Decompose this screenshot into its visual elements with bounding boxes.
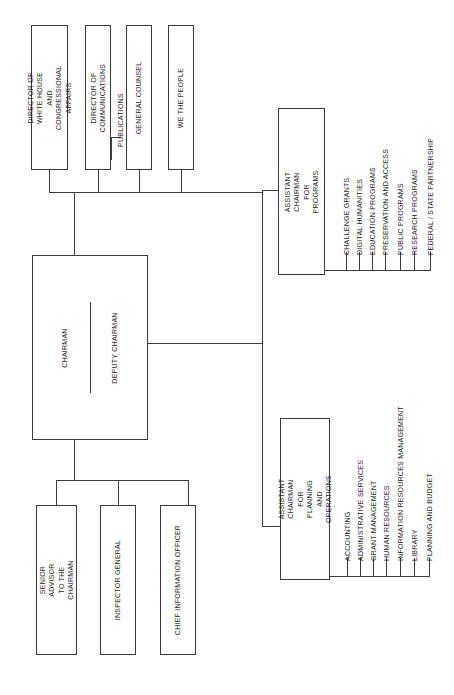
node-director-communications[interactable]: DIRECTOR OF COMMUNICATIONS xyxy=(85,25,111,170)
node-assistant-chairman-programs[interactable]: ASSISTANT CHAIRMAN FOR PROGRAMS xyxy=(278,108,325,275)
node-chief-information-officer[interactable]: CHIEF INFORMATION OFFICER xyxy=(160,505,196,655)
node-label: GENERAL COUNSEL xyxy=(134,61,143,134)
programs-item: CHALLENGE GRANTS xyxy=(343,177,350,255)
operations-item: HUMAN RESOURCES xyxy=(383,485,390,561)
staff-bus xyxy=(49,192,263,193)
node-label: ASSISTANT CHAIRMAN FOR PROGRAMS xyxy=(283,170,321,213)
direct-reports-stem xyxy=(74,440,75,480)
operations-bus xyxy=(330,576,430,577)
node-senior-advisor[interactable]: SENIOR ADVISOR TO THE CHAIRMAN xyxy=(36,505,77,655)
staff-drop-white-house xyxy=(49,170,50,192)
assistant-chairmen-spine xyxy=(262,190,263,526)
programs-item: PUBLIC PROGRAMS xyxy=(397,183,404,255)
node-chairman-office[interactable]: CHAIRMAN DEPUTY CHAIRMAN xyxy=(32,255,148,440)
direct-reports-drop-inspector-general xyxy=(118,480,119,505)
direct-reports-drop-cio xyxy=(188,480,189,505)
node-label: DIRECTOR OF WHITE HOUSE AND CONGRESSIONA… xyxy=(26,65,73,129)
node-publications: PUBLICATIONS xyxy=(117,93,124,147)
operations-item: LIBRARY xyxy=(411,529,418,561)
programs-bus xyxy=(325,270,431,271)
programs-item: FEDERAL / STATE PARTNERSHIP xyxy=(427,138,434,255)
operations-item: GRANT MANAGEMENT xyxy=(370,481,377,562)
node-assistant-chairman-planning-operations[interactable]: ASSISTANT CHAIRMAN FOR PLANNING AND OPER… xyxy=(280,418,330,580)
node-inspector-general[interactable]: INSPECTOR GENERAL xyxy=(100,505,136,655)
node-general-counsel[interactable]: GENERAL COUNSEL xyxy=(126,25,152,170)
node-label: SENIOR ADVISOR TO THE CHAIRMAN xyxy=(38,560,76,599)
node-label-deputy-chairman: DEPUTY CHAIRMAN xyxy=(110,312,119,383)
org-chart: DIRECTOR OF WHITE HOUSE AND CONGRESSIONA… xyxy=(0,0,454,695)
programs-item: DIGITAL HUMANITIES xyxy=(356,179,363,255)
operations-item: ADMINISTRATIVE SERVICES xyxy=(357,460,364,561)
publications-connector-vertical xyxy=(111,137,112,160)
node-label: DIRECTOR OF COMMUNICATIONS xyxy=(89,63,108,131)
programs-item: EDUCATION PROGRAMS xyxy=(369,167,376,255)
node-label-chairman: CHAIRMAN xyxy=(60,328,69,367)
staff-drop-we-the-people xyxy=(181,170,182,192)
node-label: ASSISTANT CHAIRMAN FOR PLANNING AND OPER… xyxy=(277,475,334,523)
programs-item: PRESERVATION AND ACCESS xyxy=(382,149,389,255)
chairman-divider xyxy=(90,302,91,394)
operations-connector xyxy=(262,526,280,527)
operations-item: INFORMATION RESOURCES MANAGEMENT xyxy=(397,406,404,561)
assistant-chairmen-stem xyxy=(148,343,262,344)
direct-reports-drop-senior-advisor xyxy=(56,480,57,505)
operations-item: ACCOUNTING xyxy=(344,511,351,561)
programs-connector xyxy=(262,190,278,191)
staff-drop-communications xyxy=(98,170,99,192)
node-label: CHIEF INFORMATION OFFICER xyxy=(173,525,182,635)
direct-reports-bus xyxy=(56,480,188,481)
chairman-top-connector xyxy=(74,192,75,255)
node-director-white-house[interactable]: DIRECTOR OF WHITE HOUSE AND CONGRESSIONA… xyxy=(31,25,68,170)
node-we-the-people[interactable]: WE THE PEOPLE xyxy=(168,25,194,170)
programs-item: RESEARCH PROGRAMS xyxy=(411,169,418,255)
node-label: WE THE PEOPLE xyxy=(176,67,185,127)
operations-item: PLANNING AND BUDGET xyxy=(426,473,433,561)
staff-drop-general-counsel xyxy=(139,170,140,192)
node-label: INSPECTOR GENERAL xyxy=(113,540,122,620)
